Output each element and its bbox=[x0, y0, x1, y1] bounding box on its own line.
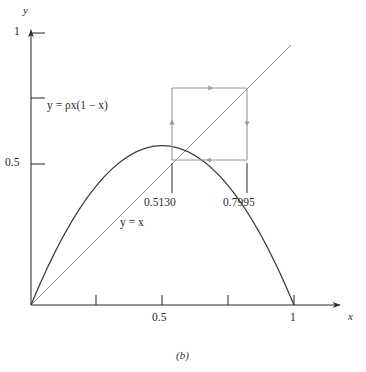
y-axis-tick-label-0-5: 0.5 bbox=[5, 157, 19, 169]
diagonal-line-y-equals-x bbox=[31, 45, 291, 305]
cobweb-direction-arrows bbox=[169, 85, 249, 162]
cobweb-arrow-down bbox=[244, 121, 249, 126]
cobweb-arrow-up bbox=[169, 120, 174, 125]
x-axis-label: x bbox=[348, 311, 353, 322]
plot-canvas bbox=[0, 0, 366, 372]
cobweb-droplines bbox=[172, 163, 247, 193]
x-axis-tick-label-0-5: 0.5 bbox=[152, 312, 166, 324]
diagonal-equation-label: y = x bbox=[120, 217, 144, 229]
logistic-parabola-curve bbox=[31, 146, 294, 306]
cobweb-value-label-left: 0.5130 bbox=[144, 197, 176, 209]
figure-caption: (b) bbox=[176, 350, 189, 361]
y-axis-tick-label-1: 1 bbox=[14, 26, 20, 38]
x-axis-ticks bbox=[96, 295, 294, 305]
y-axis-label: y bbox=[23, 5, 28, 16]
axis-lines bbox=[31, 30, 340, 305]
cobweb-value-label-right: 0.7995 bbox=[223, 197, 255, 209]
x-axis-tick-label-1: 1 bbox=[290, 312, 296, 324]
cobweb-arrow-left bbox=[206, 157, 211, 162]
cobweb-arrow-right bbox=[208, 85, 213, 90]
parabola-equation-label: y = ρx(1 − x) bbox=[47, 100, 108, 112]
y-axis-ticks bbox=[31, 33, 45, 164]
figure-container: 1 0.5 0.5 1 y x y = ρx(1 − x) y = x 0.51… bbox=[0, 0, 366, 372]
